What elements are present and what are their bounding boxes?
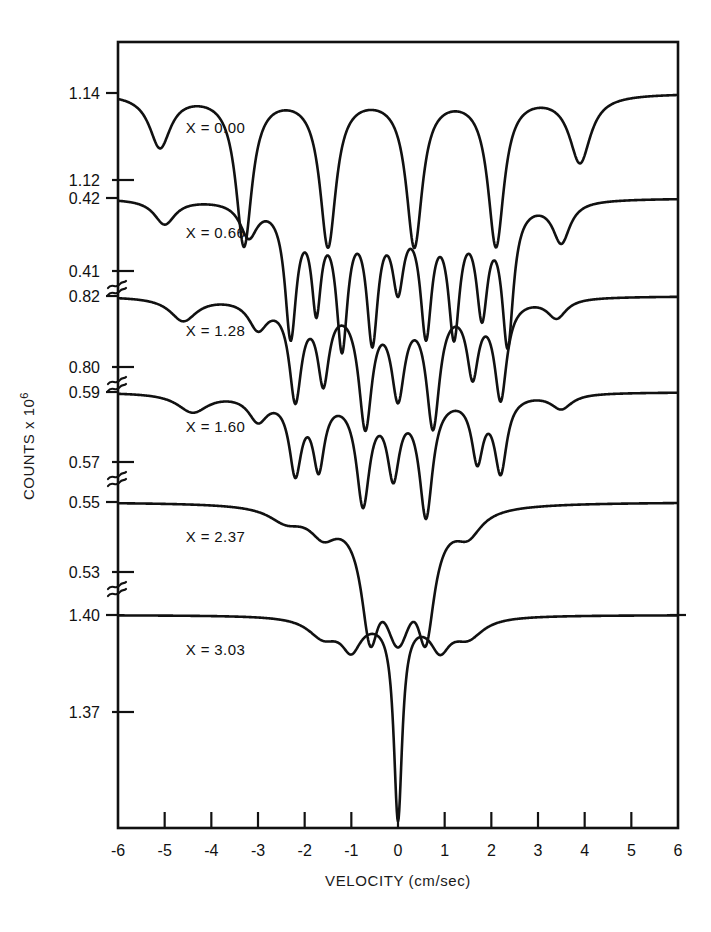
plot-frame xyxy=(118,42,678,828)
x-tick-label-2: -4 xyxy=(204,842,218,859)
x-tick-label-8: 2 xyxy=(487,842,496,859)
y-tick-label-lower-5: 1.37 xyxy=(69,704,100,721)
y-tick-label-upper-1: 0.42 xyxy=(69,190,100,207)
y-tick-label-upper-0: 1.14 xyxy=(69,85,100,102)
x-axis-title: VELOCITY (cm/sec) xyxy=(325,872,471,889)
x-tick-label-1: -5 xyxy=(158,842,172,859)
y-tick-label-upper-4: 0.55 xyxy=(69,494,100,511)
y-axis-tick-labels: 1.141.120.420.410.820.800.590.570.550.53… xyxy=(69,85,100,721)
x-axis-tick-labels: -6-5-4-3-2-10123456 xyxy=(111,842,683,859)
y-tick-label-upper-2: 0.82 xyxy=(69,288,100,305)
x-tick-label-6: 0 xyxy=(394,842,403,859)
x-tick-label-3: -3 xyxy=(251,842,265,859)
x-tick-label-0: -6 xyxy=(111,842,125,859)
y-axis-title-exponent: 6 xyxy=(18,392,30,399)
spectrum-label-0: X = 0.00 xyxy=(186,119,246,136)
y-tick-label-lower-2: 0.80 xyxy=(69,359,100,376)
x-tick-label-9: 3 xyxy=(534,842,543,859)
y-axis-title: COUNTS x 106 xyxy=(18,392,37,500)
spectrum-label-1: X = 0.66 xyxy=(186,224,246,241)
x-tick-label-4: -2 xyxy=(298,842,312,859)
spectrum-label-2: X = 1.28 xyxy=(186,322,246,339)
spectrum-curve-4 xyxy=(118,503,678,647)
y-tick-label-upper-5: 1.40 xyxy=(69,607,100,624)
y-tick-label-lower-1: 0.41 xyxy=(69,263,100,280)
svg-text:COUNTS x 106: COUNTS x 106 xyxy=(18,392,37,500)
y-tick-label-lower-0: 1.12 xyxy=(69,172,100,189)
mossbauer-spectra-figure: COUNTS x 106 1.141.120.420.410.820.800.5… xyxy=(0,0,711,932)
x-tick-label-10: 4 xyxy=(580,842,589,859)
spectrum-label-3: X = 1.60 xyxy=(186,418,246,435)
y-tick-label-upper-3: 0.59 xyxy=(69,384,100,401)
spectra-curves xyxy=(118,95,678,821)
y-axis-title-text: COUNTS x 10 xyxy=(20,399,37,500)
x-tick-label-11: 5 xyxy=(627,842,636,859)
x-tick-label-7: 1 xyxy=(440,842,449,859)
x-axis-ticks xyxy=(165,812,632,828)
spectrum-curve-3 xyxy=(118,393,678,519)
spectrum-label-5: X = 3.03 xyxy=(186,641,246,658)
spectrum-label-4: X = 2.37 xyxy=(186,528,246,545)
y-tick-label-lower-4: 0.53 xyxy=(69,564,100,581)
spectra-plot: COUNTS x 106 1.141.120.420.410.820.800.5… xyxy=(0,0,711,932)
y-tick-label-lower-3: 0.57 xyxy=(69,454,100,471)
x-tick-label-5: -1 xyxy=(344,842,358,859)
x-tick-label-12: 6 xyxy=(674,842,683,859)
